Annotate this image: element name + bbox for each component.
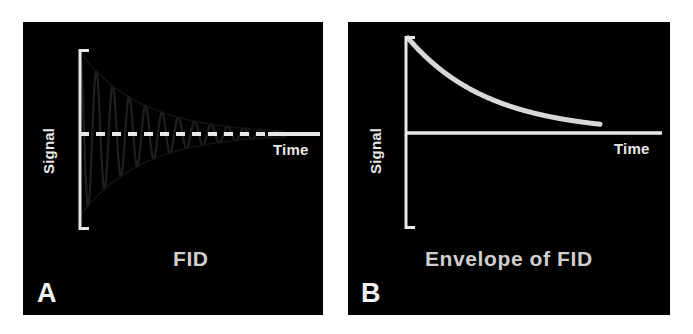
panel-b-plot — [348, 22, 670, 315]
panel-a-plot — [23, 22, 323, 315]
panel-b-letter: B — [361, 280, 381, 307]
panel-b-x-axis-label: Time — [614, 141, 650, 156]
panel-b-caption: Envelope of FID — [425, 248, 593, 269]
figure-root: Signal Time FID A Signal Time Envelope — [0, 0, 693, 334]
panel-b-envelope: Signal Time Envelope of FID B — [348, 22, 670, 315]
panel-a-caption: FID — [173, 248, 209, 269]
envelope-decay-curve — [408, 38, 600, 124]
panel-a-x-axis-label: Time — [273, 142, 309, 157]
panel-a-fid: Signal Time FID A — [23, 22, 323, 315]
panel-b-y-axis-label: Signal — [368, 128, 383, 174]
panel-a-y-axis-label: Signal — [41, 128, 56, 174]
panel-a-letter: A — [37, 280, 57, 307]
